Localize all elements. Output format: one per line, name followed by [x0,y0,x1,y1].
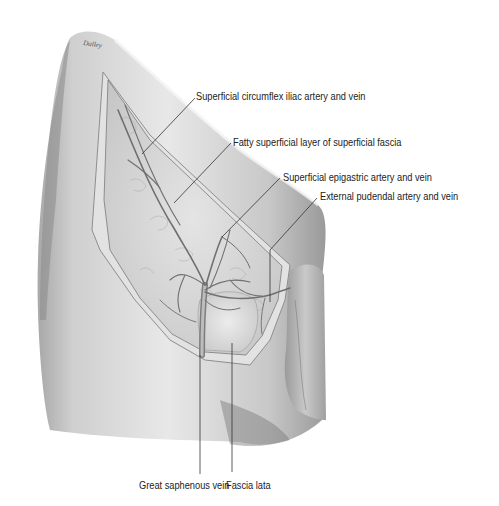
label-external-pudendal: External pudendal artery and vein [320,190,458,202]
fascia-lata-area [198,292,258,352]
label-great-saphenous-vein: Great saphenous vein [139,479,229,491]
label-fascia-lata: Fascia lata [226,479,271,491]
genital-region [285,265,326,420]
anatomy-illustration: Dalley [0,0,499,506]
label-superficial-epigastric: Superficial epigastric artery and vein [283,171,432,183]
label-superficial-circumflex-iliac: Superficial circumflex iliac artery and … [196,90,365,102]
label-fatty-superficial-layer: Fatty superficial layer of superficial f… [233,136,401,148]
